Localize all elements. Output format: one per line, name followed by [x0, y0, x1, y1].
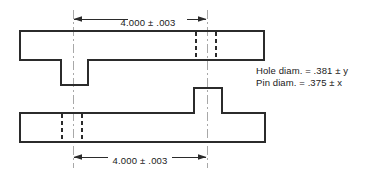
top-dimension-label: 4.000 ± .003 [108, 12, 188, 30]
top-dimension-arrow-right [198, 16, 207, 21]
centerline-group [73, 10, 207, 168]
lower-plate-group [20, 88, 265, 142]
bottom-dimension-text: 4.000 ± .003 [112, 155, 167, 166]
pin-diameter-note: Pin diam. = .375 ± x [256, 77, 348, 89]
bottom-dimension-arrow-left [74, 154, 83, 159]
drawing-vector-area [0, 0, 376, 177]
top-dimension-text: 4.000 ± .003 [120, 17, 175, 28]
lower-plate-outline [20, 88, 265, 142]
upper-plate-outline [20, 31, 264, 85]
top-dimension-arrow-left [74, 16, 83, 21]
notes-block: Hole diam. = .381 ± y Pin diam. = .375 ±… [256, 65, 348, 88]
hole-diameter-note: Hole diam. = .381 ± y [256, 65, 348, 77]
bottom-dimension-arrow-right [198, 154, 207, 159]
technical-drawing-canvas: 4.000 ± .003 4.000 ± .003 Hole diam. = .… [0, 0, 376, 177]
upper-plate-group [20, 31, 264, 85]
bottom-dimension-label: 4.000 ± .003 [100, 150, 180, 168]
